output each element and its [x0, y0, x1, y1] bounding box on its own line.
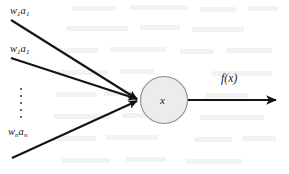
neuron-diagram: w1a1 w1a1 wnan x f(x) [0, 0, 289, 174]
input-label-2: w1a1 [10, 44, 29, 56]
diagram-canvas [0, 0, 289, 174]
output-function-label: f(x) [221, 73, 237, 85]
input-2-activation-subscript: 1 [26, 48, 30, 56]
ellipsis-dot [20, 102, 22, 104]
ellipsis-dot [20, 95, 22, 97]
ellipsis-dot [20, 88, 22, 90]
ellipsis-dot [20, 109, 22, 111]
input-edge-2 [11, 58, 137, 99]
input-edge-n [12, 101, 137, 158]
vertical-ellipsis [19, 88, 23, 118]
input-label-1: w1a1 [10, 6, 29, 18]
input-n-activation-subscript: n [24, 131, 28, 139]
input-edge-1 [11, 20, 137, 99]
input-label-n: wnan [8, 127, 27, 139]
neuron-node-label: x [160, 95, 165, 106]
output-paren-close: ) [233, 72, 237, 84]
ellipsis-dot [20, 116, 22, 118]
input-1-activation-subscript: 1 [26, 10, 30, 18]
